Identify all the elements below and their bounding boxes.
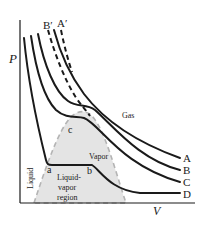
liquid-vapor-label-3: region [57, 193, 77, 202]
liquid-vapor-label-1: Liquid- [57, 173, 81, 182]
point-c-label: c [68, 124, 73, 135]
label-b: B [183, 164, 190, 176]
isotherm-b-prime [48, 30, 90, 116]
label-d: D [183, 188, 191, 200]
pv-diagram: P V B′ A′ A B C D Gas Vapor Liquid Liqui… [0, 0, 205, 226]
point-b-label: b [87, 165, 92, 176]
liquid-vapor-label-2: vapor [58, 183, 77, 192]
label-c: C [183, 176, 190, 188]
gas-label: Gas [122, 111, 134, 120]
label-b-prime: B′ [43, 19, 53, 31]
vapor-label: Vapor [89, 152, 108, 161]
liquid-label: Liquid [26, 168, 35, 189]
y-axis-label: P [8, 51, 17, 66]
label-a-prime: A′ [57, 17, 67, 29]
point-a-label: a [47, 164, 52, 175]
x-axis-label: V [153, 204, 162, 218]
label-a: A [183, 152, 191, 164]
